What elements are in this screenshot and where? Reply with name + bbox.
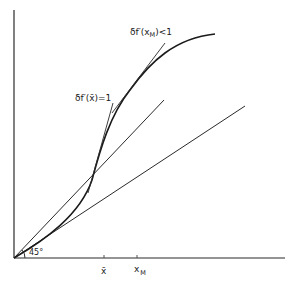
function-diagram: x̄ xM 45° δf′(x̄)=1 δf′(xM)<1	[0, 0, 294, 290]
tick-label-xm: xM	[134, 264, 146, 277]
tangent-line-xbar	[88, 103, 113, 193]
label-tangent-xbar: δf′(x̄)=1	[75, 93, 111, 103]
tick-label-xbar: x̄	[101, 266, 107, 276]
tangent-line-xm	[112, 43, 165, 113]
45-degree-line	[14, 100, 164, 258]
label-tangent-xm: δf′(xM)<1	[130, 27, 172, 39]
angle-label: 45°	[29, 248, 43, 257]
